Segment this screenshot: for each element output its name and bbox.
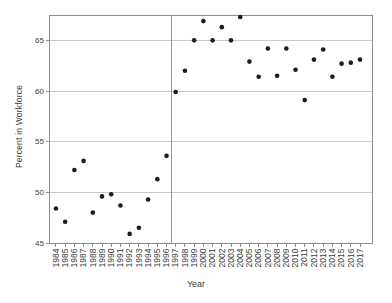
data-point-2008 bbox=[275, 74, 280, 79]
data-point-2017 bbox=[358, 57, 363, 62]
data-point-1992 bbox=[127, 232, 132, 237]
data-point-1995 bbox=[155, 177, 160, 182]
data-point-1997 bbox=[173, 90, 178, 95]
y-tick-label: 45 bbox=[35, 239, 44, 248]
data-point-2011 bbox=[302, 98, 307, 103]
data-point-2003 bbox=[229, 38, 234, 43]
data-point-2010 bbox=[293, 67, 298, 72]
data-point-2004 bbox=[238, 15, 243, 20]
data-point-2006 bbox=[256, 75, 261, 80]
y-axis-label: Percent in Workforce bbox=[14, 84, 25, 170]
data-point-1984 bbox=[54, 206, 59, 211]
x-tick-label: 2017 bbox=[355, 248, 365, 267]
scatter-plot: 4550556065198419851986198719881989199019… bbox=[0, 0, 392, 303]
data-point-1999 bbox=[192, 38, 197, 43]
data-point-2007 bbox=[266, 46, 271, 51]
data-point-2001 bbox=[210, 38, 215, 43]
data-point-2012 bbox=[312, 57, 317, 62]
scatter-plot-figure: 4550556065198419851986198719881989199019… bbox=[0, 0, 392, 303]
data-point-1990 bbox=[109, 192, 114, 197]
data-point-2009 bbox=[284, 46, 289, 51]
data-point-2005 bbox=[247, 59, 252, 64]
data-point-2014 bbox=[330, 75, 335, 80]
data-point-1996 bbox=[164, 154, 169, 159]
y-tick-label: 65 bbox=[35, 36, 44, 45]
data-point-2000 bbox=[201, 19, 206, 24]
data-point-1986 bbox=[72, 168, 77, 173]
data-point-2002 bbox=[220, 25, 225, 30]
y-tick-label: 55 bbox=[35, 137, 44, 146]
data-point-1994 bbox=[146, 197, 151, 202]
y-tick-label: 50 bbox=[35, 188, 44, 197]
data-point-1989 bbox=[100, 194, 105, 199]
data-point-1993 bbox=[137, 226, 142, 231]
data-point-1988 bbox=[91, 210, 96, 215]
data-point-2016 bbox=[349, 60, 354, 65]
data-point-2013 bbox=[321, 47, 326, 52]
y-tick-label: 60 bbox=[35, 87, 44, 96]
data-point-2015 bbox=[339, 61, 344, 66]
data-point-1998 bbox=[183, 68, 188, 73]
data-point-1991 bbox=[118, 203, 123, 208]
data-point-1985 bbox=[63, 219, 68, 224]
x-axis-label: Year bbox=[146, 279, 246, 289]
data-point-1987 bbox=[81, 159, 86, 164]
